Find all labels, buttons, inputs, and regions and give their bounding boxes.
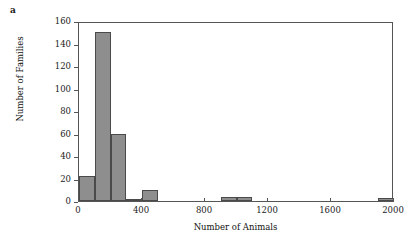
y-axis-title: Number of Families	[15, 14, 25, 144]
x-tick-label: 2000	[382, 205, 404, 215]
y-tick-label: 160	[55, 16, 71, 26]
histogram-bar	[111, 134, 127, 202]
bar-series	[79, 23, 392, 201]
x-tick-mark	[78, 198, 79, 202]
x-tick-mark	[141, 198, 142, 202]
histogram-bar	[237, 197, 253, 202]
y-tick-label: 60	[60, 129, 71, 139]
y-tick-label: 80	[60, 106, 71, 116]
y-tick-label: 40	[60, 151, 71, 161]
x-tick-label: 400	[133, 205, 149, 215]
y-tick-label: 100	[55, 84, 71, 94]
histogram-bar	[95, 32, 111, 201]
x-tick-label: 0	[75, 205, 80, 215]
histogram-bar	[126, 199, 142, 201]
x-tick-label: 1600	[319, 205, 341, 215]
y-tick-label: 140	[55, 39, 71, 49]
y-axis: 020406080100120140160	[0, 22, 78, 202]
y-tick-label: 0	[66, 196, 71, 206]
x-axis: 0400800120016002000	[78, 202, 393, 222]
x-tick-label: 1200	[256, 205, 278, 215]
histogram-bar	[378, 198, 394, 201]
x-tick-mark	[393, 198, 394, 202]
x-tick-label: 800	[196, 205, 212, 215]
histogram-bar	[79, 176, 95, 201]
plot-area	[78, 22, 393, 202]
x-tick-mark	[267, 198, 268, 202]
y-tick-label: 120	[55, 61, 71, 71]
y-tick-label: 20	[60, 174, 71, 184]
histogram-bar	[142, 190, 158, 201]
histogram-bar	[221, 197, 237, 202]
x-axis-title: Number of Animals	[78, 222, 393, 232]
x-tick-mark	[330, 198, 331, 202]
x-tick-mark	[204, 198, 205, 202]
